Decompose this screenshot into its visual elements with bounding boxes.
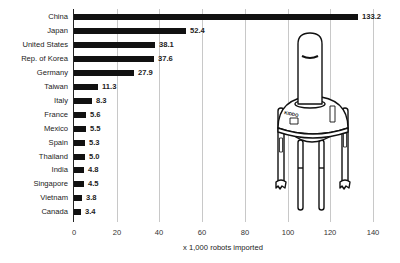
value-label: 11.3 xyxy=(102,83,116,91)
bar xyxy=(74,70,134,76)
category-label: India xyxy=(52,166,68,174)
category-label: United States xyxy=(22,41,68,49)
robot-left-leg xyxy=(298,140,303,210)
category-label: Italy xyxy=(54,97,68,105)
value-label: 52.4 xyxy=(190,27,205,35)
value-label: 5.0 xyxy=(89,153,100,161)
bar xyxy=(74,167,84,173)
gridline xyxy=(245,9,246,222)
category-label: France xyxy=(44,111,68,119)
bar xyxy=(74,181,84,187)
robot-right-leg xyxy=(319,140,324,210)
category-label: Taiwan xyxy=(44,83,68,91)
gridline xyxy=(117,9,118,222)
value-label: 4.5 xyxy=(88,180,99,188)
value-label: 8.3 xyxy=(96,97,107,105)
value-label: 3.8 xyxy=(86,194,97,202)
x-tick-label: 80 xyxy=(241,228,249,237)
bar xyxy=(74,195,82,201)
value-label: 37.6 xyxy=(158,55,173,63)
robot-right-claw xyxy=(340,180,350,189)
x-tick-label: 60 xyxy=(198,228,206,237)
value-label: 5.5 xyxy=(90,125,101,133)
bar xyxy=(74,140,85,146)
bar xyxy=(74,98,92,104)
category-label: Canada xyxy=(41,208,68,216)
value-label: 3.4 xyxy=(85,208,96,216)
x-tick-label: 140 xyxy=(367,228,380,237)
x-tick-label: 120 xyxy=(324,228,337,237)
bar xyxy=(74,28,186,34)
category-label: Spain xyxy=(49,139,68,147)
x-tick-label: 100 xyxy=(282,228,295,237)
bar xyxy=(74,126,86,132)
category-label: Japan xyxy=(47,27,68,35)
value-label: 27.9 xyxy=(138,69,153,77)
bar xyxy=(74,56,154,62)
value-label: 4.8 xyxy=(88,166,99,174)
category-label: China xyxy=(48,13,68,21)
robot-left-claw xyxy=(276,180,286,189)
category-label: Germany xyxy=(37,69,68,77)
bar-chart: China133.2Japan52.4United States38.1Rep.… xyxy=(0,0,400,263)
category-label: Mexico xyxy=(44,125,68,133)
category-label: Vietnam xyxy=(40,194,68,202)
gridline xyxy=(202,9,203,222)
category-label: Thailand xyxy=(39,153,68,161)
bar xyxy=(74,154,85,160)
gridline xyxy=(373,9,374,222)
value-label: 133.2 xyxy=(362,13,381,21)
bar xyxy=(74,84,98,90)
x-axis-title: x 1,000 robots imported xyxy=(183,243,263,252)
bar xyxy=(74,209,81,215)
x-tick-label: 40 xyxy=(155,228,163,237)
category-label: Singapore xyxy=(33,180,68,188)
value-label: 5.3 xyxy=(89,139,100,147)
bar xyxy=(74,14,358,20)
robot-illustration: KIDDO xyxy=(270,28,360,218)
bar xyxy=(74,112,86,118)
value-label: 5.6 xyxy=(90,111,101,119)
robot-head xyxy=(298,33,322,104)
bar xyxy=(74,42,155,48)
x-tick-label: 20 xyxy=(113,228,121,237)
x-tick-label: 0 xyxy=(72,228,76,237)
value-label: 38.1 xyxy=(159,41,174,49)
category-label: Rep. of Korea xyxy=(21,55,68,63)
